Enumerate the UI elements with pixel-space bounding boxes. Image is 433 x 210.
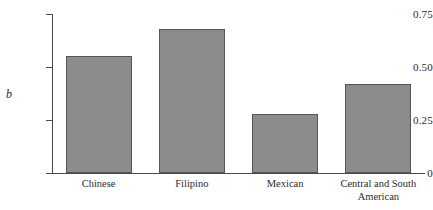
bar-chart: b 0 0.25 0.50 0.75 Chinese Filipino Mexi…: [0, 0, 433, 210]
bar-filipino: [159, 29, 225, 173]
y-tick-mark-0: [46, 173, 52, 174]
bar-central-and-south-american: [345, 84, 411, 173]
x-axis-line: [52, 173, 425, 174]
bar-chinese: [66, 56, 132, 173]
y-axis-title: b: [6, 88, 12, 100]
plot-area: [52, 14, 425, 173]
x-tick-label-central-and-south-american: Central and South American: [323, 178, 433, 203]
bar-mexican: [252, 114, 318, 173]
